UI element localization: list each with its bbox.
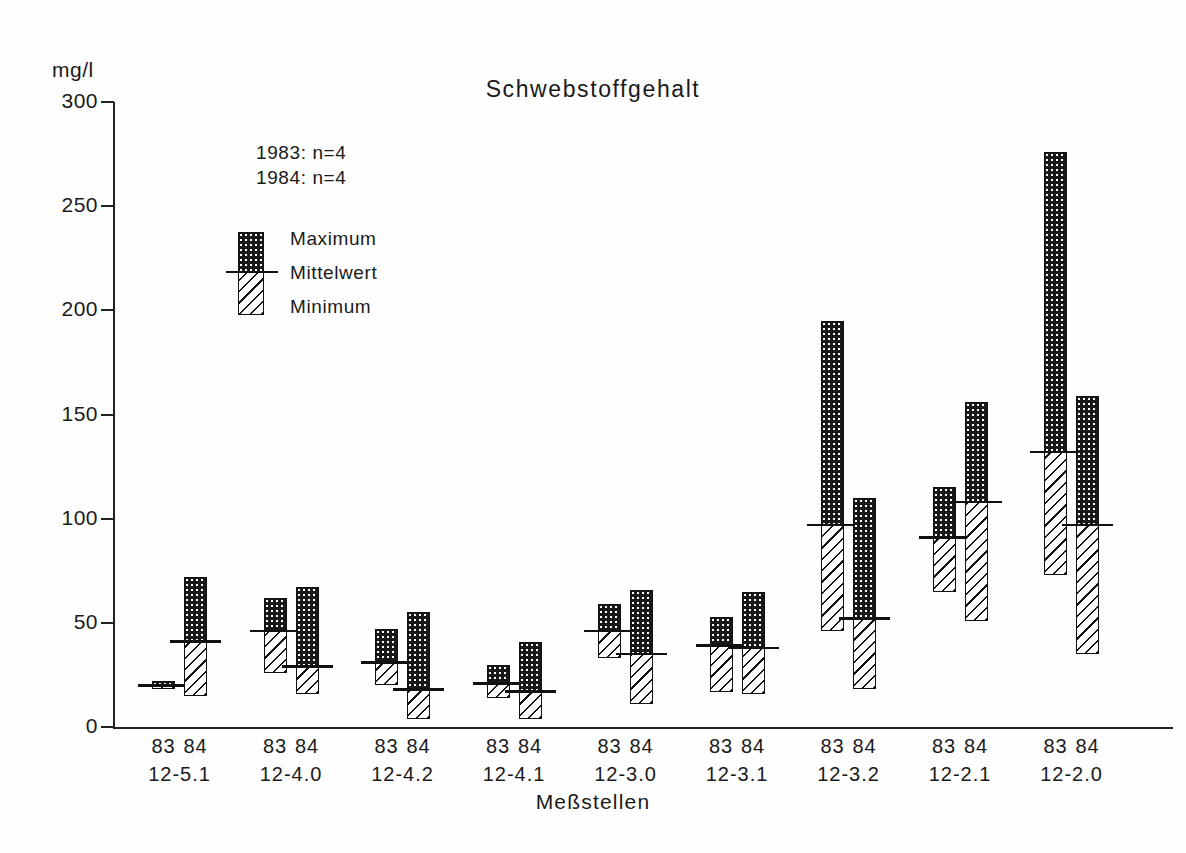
bar-segment-minimum (1045, 453, 1066, 574)
x-year-label-12-5.1-84: 84 (176, 735, 216, 758)
mean-tick-12-4.2-83 (361, 661, 412, 664)
bar-segment-maximum (265, 599, 286, 632)
legend-key-bar (238, 232, 264, 315)
mean-tick-12-2.0-83 (1030, 451, 1081, 454)
legend-label-mittelwert: Mittelwert (290, 262, 377, 284)
bar-segment-minimum (1077, 526, 1098, 653)
bar-segment-maximum (743, 593, 764, 649)
bar-segment-minimum (297, 668, 318, 693)
y-tick-label-250: 250 (38, 193, 98, 217)
bar-segment-maximum (599, 605, 620, 632)
x-group-label-12-3.2: 12-3.2 (789, 763, 909, 786)
chart-title: Schwebstoffgehalt (0, 76, 1186, 103)
bar-12-3.1-83[interactable] (710, 617, 733, 692)
bar-segment-minimum (854, 620, 875, 689)
bar-segment-maximum (1045, 153, 1066, 453)
bar-segment-minimum (185, 643, 206, 695)
x-axis-title: Meßstellen (0, 790, 1186, 814)
mean-tick-12-5.1-83 (138, 684, 189, 687)
legend-key-minimum-segment (239, 272, 263, 314)
mean-tick-12-2.1-84 (951, 501, 1002, 504)
x-year-label-12-2.1-84: 84 (956, 735, 996, 758)
mean-tick-12-3.0-84 (616, 653, 667, 656)
mean-tick-12-4.1-83 (473, 682, 524, 685)
bar-12-3.1-84[interactable] (742, 592, 765, 694)
y-tick-label-100: 100 (38, 506, 98, 530)
y-tick-label-0: 0 (38, 714, 98, 738)
bar-12-2.1-84[interactable] (965, 402, 988, 621)
y-tick-200 (101, 309, 114, 311)
y-tick-0 (101, 726, 114, 728)
bar-segment-maximum (376, 630, 397, 663)
x-year-label-12-4.0-84: 84 (287, 735, 327, 758)
x-axis-line (113, 727, 1173, 729)
bar-12-4.0-83[interactable] (264, 598, 287, 673)
mean-tick-12-5.1-84 (170, 640, 221, 643)
y-tick-250 (101, 205, 114, 207)
mean-tick-12-3.1-84 (728, 647, 779, 650)
bar-segment-minimum (822, 526, 843, 630)
x-group-label-12-2.0: 12-2.0 (1012, 763, 1132, 786)
bar-12-4.2-84[interactable] (407, 612, 430, 718)
x-year-label-12-2.0-84: 84 (1068, 735, 1108, 758)
bar-segment-maximum (520, 643, 541, 693)
mean-tick-12-3.2-84 (839, 617, 890, 620)
x-year-label-12-4.2-84: 84 (399, 735, 439, 758)
bar-segment-minimum (153, 686, 174, 688)
sample-note-1984: 1984: n=4 (256, 165, 346, 190)
x-group-label-12-3.0: 12-3.0 (566, 763, 686, 786)
bar-12-3.0-84[interactable] (630, 590, 653, 705)
mean-tick-12-4.0-84 (282, 665, 333, 668)
bar-segment-minimum (408, 690, 429, 717)
bar-segment-maximum (1077, 397, 1098, 526)
sample-size-note: 1983: n=4 1984: n=4 (256, 140, 346, 190)
mean-tick-12-3.2-83 (807, 524, 858, 527)
bar-12-4.1-84[interactable] (519, 642, 542, 719)
y-tick-50 (101, 622, 114, 624)
x-group-label-12-4.0: 12-4.0 (231, 763, 351, 786)
y-tick-label-200: 200 (38, 297, 98, 321)
bar-segment-minimum (743, 649, 764, 693)
bar-segment-maximum (822, 322, 843, 526)
sample-note-1983: 1983: n=4 (256, 140, 346, 165)
legend-key-maximum-segment (239, 233, 263, 272)
bar-12-5.1-84[interactable] (184, 577, 207, 696)
bar-segment-maximum (854, 499, 875, 620)
y-tick-100 (101, 518, 114, 520)
bar-segment-maximum (185, 578, 206, 643)
x-group-label-12-4.2: 12-4.2 (343, 763, 463, 786)
bar-12-3.2-84[interactable] (853, 498, 876, 690)
bar-segment-maximum (408, 613, 429, 690)
chart-canvas: mg/l Schwebstoffgehalt Meßstellen 050100… (0, 0, 1186, 853)
bar-segment-minimum (376, 663, 397, 684)
x-group-label-12-3.1: 12-3.1 (677, 763, 797, 786)
y-tick-label-50: 50 (38, 610, 98, 634)
y-tick-150 (101, 414, 114, 416)
mean-tick-12-2.1-83 (919, 536, 970, 539)
bar-segment-minimum (934, 538, 955, 590)
bar-12-3.2-83[interactable] (821, 321, 844, 631)
x-group-label-12-4.1: 12-4.1 (454, 763, 574, 786)
bar-segment-maximum (934, 488, 955, 538)
y-axis-line (113, 102, 115, 729)
bar-segment-minimum (966, 503, 987, 620)
bar-12-2.0-83[interactable] (1044, 152, 1067, 575)
bar-segment-maximum (631, 591, 652, 656)
x-group-label-12-2.1: 12-2.1 (900, 763, 1020, 786)
mean-tick-12-4.0-83 (250, 630, 301, 633)
x-group-label-12-5.1: 12-5.1 (120, 763, 240, 786)
x-year-label-12-3.2-84: 84 (845, 735, 885, 758)
bar-12-4.2-83[interactable] (375, 629, 398, 685)
mean-tick-12-2.0-84 (1062, 524, 1113, 527)
bar-12-4.0-84[interactable] (296, 587, 319, 693)
bar-segment-maximum (966, 403, 987, 503)
x-year-label-12-4.1-84: 84 (510, 735, 550, 758)
y-tick-label-150: 150 (38, 402, 98, 426)
mean-tick-12-4.2-84 (393, 688, 444, 691)
bar-segment-minimum (520, 693, 541, 718)
bar-segment-maximum (297, 588, 318, 667)
mean-tick-12-3.0-83 (584, 630, 635, 633)
bar-segment-minimum (711, 647, 732, 691)
y-tick-300 (101, 101, 114, 103)
bar-segment-maximum (711, 618, 732, 647)
